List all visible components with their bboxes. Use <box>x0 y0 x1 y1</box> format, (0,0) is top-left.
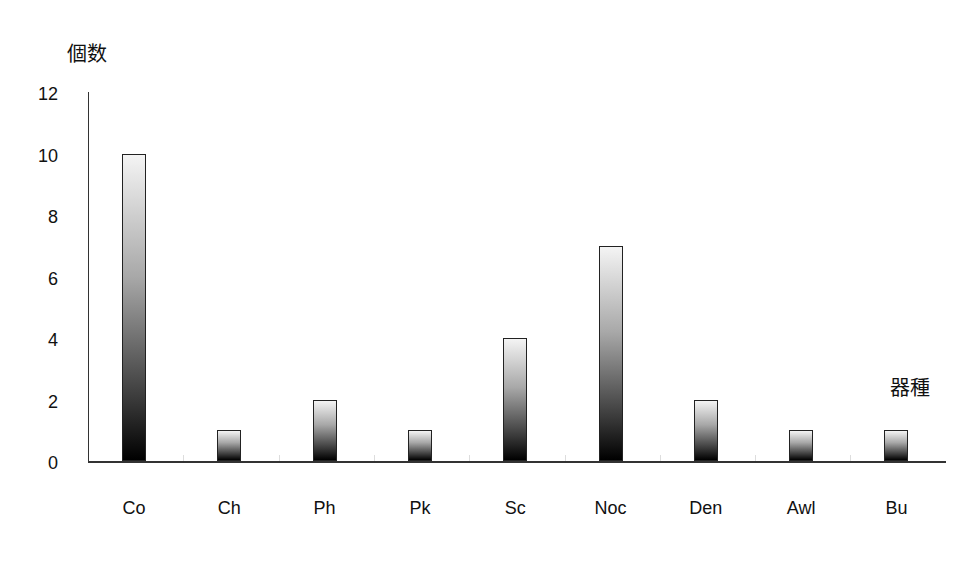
y-tick-label: 4 <box>18 330 58 351</box>
y-tick-label: 10 <box>18 146 58 167</box>
x-tick-label: Noc <box>571 498 651 519</box>
x-gridtick <box>755 455 756 461</box>
x-gridtick <box>850 455 851 461</box>
y-tick-label: 12 <box>18 84 58 105</box>
x-tick-label: Awl <box>761 498 841 519</box>
bar-bu <box>884 430 908 461</box>
x-tick-label: Sc <box>475 498 555 519</box>
x-tick-label: Ch <box>189 498 269 519</box>
bar-pk <box>408 430 432 461</box>
x-tick-label: Den <box>666 498 746 519</box>
x-gridtick <box>660 455 661 461</box>
y-tick-label: 6 <box>18 269 58 290</box>
x-tick-label: Ph <box>285 498 365 519</box>
y-tick-label: 2 <box>18 392 58 413</box>
y-axis-label: 個数 <box>67 38 107 67</box>
bar-co <box>122 154 146 462</box>
bar-den <box>694 400 718 462</box>
x-tick-label: Co <box>94 498 174 519</box>
y-tick-label: 0 <box>18 453 58 474</box>
bar-ph <box>313 400 337 462</box>
y-axis <box>88 92 89 462</box>
x-gridtick <box>374 455 375 461</box>
x-gridtick <box>469 455 470 461</box>
bar-noc <box>599 246 623 461</box>
bar-ch <box>217 430 241 461</box>
bar-awl <box>789 430 813 461</box>
x-tick-label: Pk <box>380 498 460 519</box>
y-tick-label: 8 <box>18 207 58 228</box>
x-axis-label: 器種 <box>890 372 930 401</box>
x-gridtick <box>565 455 566 461</box>
x-gridtick <box>279 455 280 461</box>
x-tick-label: Bu <box>856 498 936 519</box>
bar-sc <box>503 338 527 461</box>
x-axis <box>88 461 946 463</box>
x-gridtick <box>183 455 184 461</box>
